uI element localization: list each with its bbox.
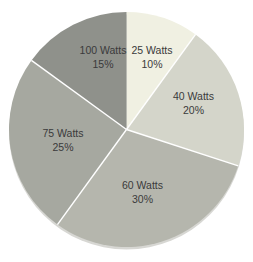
pie-label-40-watts: 40 Watts [173, 90, 214, 102]
pie-percent-75-watts: 25% [52, 141, 73, 153]
pie-label-60-watts: 60 Watts [122, 179, 163, 191]
pie-chart-svg: 25 Watts10%40 Watts20%60 Watts30%75 Watt… [0, 0, 253, 262]
pie-label-25-watts: 25 Watts [131, 44, 172, 56]
pie-percent-100-watts: 15% [92, 58, 113, 70]
pie-label-75-watts: 75 Watts [42, 127, 83, 139]
pie-percent-60-watts: 30% [132, 193, 153, 205]
pie-label-100-watts: 100 Watts [80, 44, 127, 56]
pie-chart-figure: 25 Watts10%40 Watts20%60 Watts30%75 Watt… [0, 0, 253, 262]
pie-percent-25-watts: 10% [141, 58, 162, 70]
pie-percent-40-watts: 20% [183, 104, 204, 116]
